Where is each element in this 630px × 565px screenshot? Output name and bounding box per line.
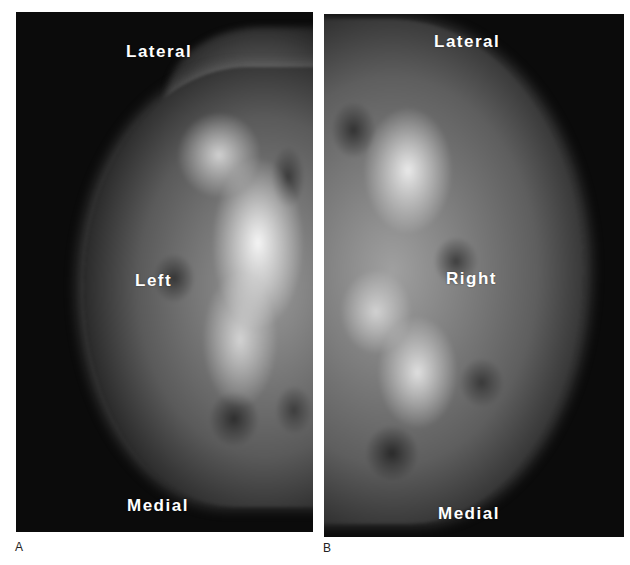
label-lateral: Lateral	[126, 42, 192, 62]
label-side: Left	[135, 271, 172, 291]
panel-letter-a: A	[15, 540, 23, 554]
label-lateral: Lateral	[434, 32, 500, 52]
label-side: Right	[446, 269, 497, 289]
mammogram-panel-left: Lateral Left Medial	[16, 12, 313, 532]
label-medial: Medial	[438, 504, 500, 524]
mammogram-panel-right: Lateral Right Medial	[324, 14, 624, 537]
breast-tissue-left	[84, 67, 313, 507]
label-medial: Medial	[127, 496, 189, 516]
panel-letter-b: B	[323, 541, 331, 555]
